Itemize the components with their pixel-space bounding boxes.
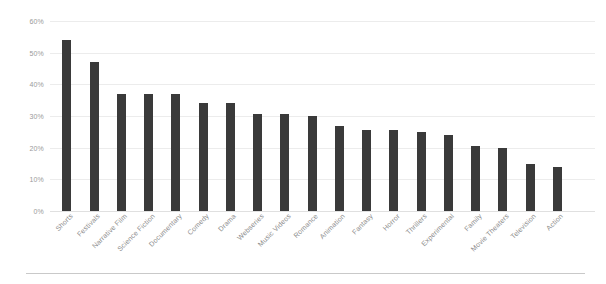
y-tick-label: 60% (29, 18, 44, 25)
x-tick-label-text: Festivals (76, 212, 101, 237)
bar[interactable] (308, 116, 317, 211)
bar[interactable] (526, 164, 535, 212)
bar[interactable] (62, 40, 71, 211)
x-tick-label-text: Thrillers (405, 212, 429, 236)
y-tick-label: 30% (29, 113, 44, 120)
x-tick-label-text: Family (463, 212, 483, 232)
footer-divider (26, 273, 585, 274)
bar[interactable] (498, 148, 507, 211)
bar[interactable] (280, 114, 289, 211)
bar[interactable] (253, 114, 262, 211)
x-tick-label-text: Drama (217, 212, 237, 232)
x-tick-label-text: Shorts (54, 212, 74, 232)
x-tick-label: Comedy (184, 213, 208, 237)
bar[interactable] (90, 62, 99, 211)
x-tick-label: Family (460, 213, 480, 233)
bar[interactable] (389, 130, 398, 211)
x-tick-label: Action (543, 213, 562, 232)
x-tick-label: Horror (379, 213, 399, 233)
y-tick-label: 10% (29, 176, 44, 183)
bar[interactable] (226, 103, 235, 211)
y-tick-label: 0% (33, 208, 44, 215)
x-tick-label: Shorts (52, 213, 72, 233)
bar[interactable] (199, 103, 208, 211)
bar[interactable] (117, 94, 126, 211)
x-tick-label: Television (507, 213, 535, 241)
bar[interactable] (553, 167, 562, 211)
x-tick-label-text: Fantasy (350, 212, 373, 235)
y-axis: 0%10%20%30%40%50%60% (0, 21, 44, 211)
bar[interactable] (471, 146, 480, 211)
x-tick-label: Drama (215, 213, 235, 233)
x-tick-label: Festivals (74, 213, 99, 238)
bar[interactable] (171, 94, 180, 211)
bar[interactable] (444, 135, 453, 211)
x-axis: ShortsFestivalsNarrative FilmScience Fic… (50, 213, 595, 273)
y-tick-label: 50% (29, 49, 44, 56)
x-tick-label: Fantasy (348, 213, 371, 236)
x-tick-label-text: Animation (319, 212, 347, 240)
bar[interactable] (417, 132, 426, 211)
x-tick-label: Animation (316, 213, 344, 241)
x-tick-label-text: Horror (381, 212, 401, 232)
gridline-0 (50, 211, 595, 212)
y-tick-label: 20% (29, 144, 44, 151)
bar-chart: 0%10%20%30%40%50%60% ShortsFestivalsNarr… (0, 0, 606, 284)
x-tick-label-text: Comedy (186, 212, 210, 236)
x-tick-label-text: Television (509, 212, 537, 240)
x-tick-label: Thrillers (403, 213, 427, 237)
bar[interactable] (335, 126, 344, 212)
x-tick-label-text: Action (545, 212, 564, 231)
x-tick-label: Romance (290, 213, 317, 240)
y-tick-label: 40% (29, 81, 44, 88)
bars-layer (50, 21, 595, 211)
bar[interactable] (362, 130, 371, 211)
bar[interactable] (144, 94, 153, 211)
